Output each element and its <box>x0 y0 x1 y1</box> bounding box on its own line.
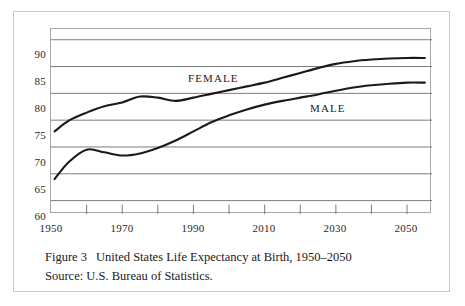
x-tick-label-2030: 2030 <box>317 222 353 234</box>
caption-figure-number: Figure 3 <box>45 250 87 264</box>
y-tick-label-90: 90 <box>24 48 46 60</box>
x-tick-label-1950: 1950 <box>33 222 69 234</box>
y-tick-label-70: 70 <box>24 156 46 168</box>
series-line-male <box>55 83 425 180</box>
figure-root: 90 85 80 75 70 65 60 1950 1970 1990 2010… <box>0 0 465 306</box>
x-tick-label-1990: 1990 <box>175 222 211 234</box>
series-label-female: FEMALE <box>188 72 239 84</box>
y-tick-label-75: 75 <box>24 129 46 141</box>
y-tick-label-60: 60 <box>24 210 46 222</box>
x-axis-ticks-group <box>87 205 407 214</box>
plot-area <box>50 28 431 213</box>
y-tick-label-65: 65 <box>24 183 46 195</box>
series-lines-group <box>55 58 425 179</box>
y-tick-label-85: 85 <box>24 75 46 87</box>
gridlines-group <box>51 40 432 201</box>
y-tick-label-80: 80 <box>24 102 46 114</box>
series-label-male: MALE <box>310 102 346 114</box>
caption-line-title: Figure 3United States Life Expectancy at… <box>45 248 440 267</box>
caption-block: Figure 3United States Life Expectancy at… <box>45 248 440 286</box>
line-chart-canvas <box>51 29 432 214</box>
caption-title-text: United States Life Expectancy at Birth, … <box>96 250 352 264</box>
caption-line-source: Source: U.S. Bureau of Statistics. <box>45 267 440 286</box>
x-tick-label-2010: 2010 <box>246 222 282 234</box>
x-tick-label-2050: 2050 <box>388 222 424 234</box>
x-tick-label-1970: 1970 <box>104 222 140 234</box>
